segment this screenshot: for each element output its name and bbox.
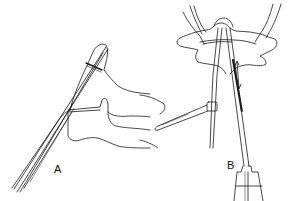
- panel-b-drawing: [140, 4, 281, 201]
- medical-illustration: A B: [0, 0, 291, 201]
- panel-label-b: B: [227, 160, 234, 171]
- line-drawing: [0, 0, 291, 201]
- panel-label-a: A: [54, 164, 61, 175]
- panel-a-drawing: [12, 44, 150, 192]
